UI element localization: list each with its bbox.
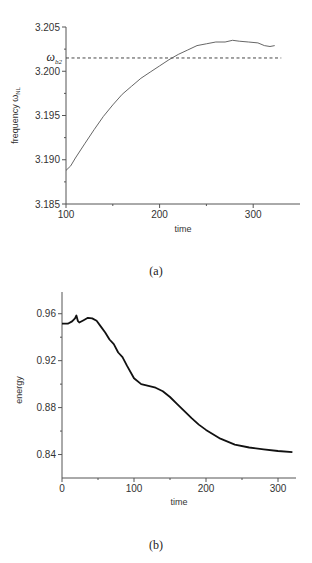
x-tick-label: 100 [58,209,75,220]
y-tick-label: 3.195 [35,110,60,121]
chart-a-x-label: time [174,224,191,234]
x-tick-label: 300 [245,209,262,220]
y-tick-label: 0.96 [37,308,57,319]
chart-b-x-label: time [170,497,187,507]
y-tick-label: 0.84 [37,449,57,460]
chart-a-series-frequency [66,40,275,170]
chart-b: 0.840.880.920.96 0100200300 time energy … [14,292,296,552]
y-tick-label: 3.205 [35,22,60,33]
x-tick-label: 100 [126,483,143,494]
chart-a-reference-label: ωb2 [47,50,63,66]
chart-a-y-label: frequency ωNL [10,86,21,143]
x-tick-label: 200 [151,209,168,220]
y-tick-label: 0.88 [37,402,57,413]
chart-b-series-energy [62,316,292,453]
chart-b-y-label: energy [14,376,24,404]
x-tick-label: 200 [198,483,215,494]
chart-a-caption: (a) [149,264,162,278]
x-tick-label: 0 [59,483,65,494]
chart-b-caption: (b) [149,538,163,552]
y-tick-label: 3.200 [35,66,60,77]
y-tick-label: 3.190 [35,154,60,165]
y-tick-label: 0.92 [37,355,57,366]
x-tick-label: 300 [270,483,287,494]
y-tick-label: 3.185 [35,199,60,210]
chart-a: 3.1853.1903.1953.2003.205 100200300 ωb2 … [10,22,300,279]
figure: 3.1853.1903.1953.2003.205 100200300 ωb2 … [0,0,312,563]
